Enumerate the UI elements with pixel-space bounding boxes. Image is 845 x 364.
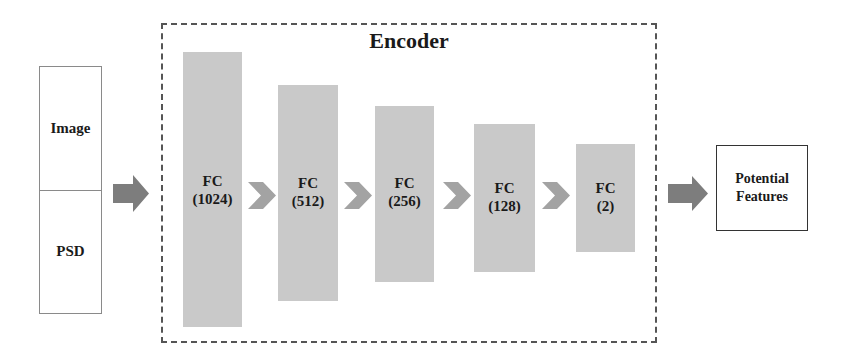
- layer-type: FC: [474, 179, 535, 197]
- block-arrow-right-icon: [668, 176, 708, 211]
- output-block: Potential Features: [716, 145, 808, 231]
- layer-type: FC: [576, 179, 635, 197]
- input-image-cell: Image: [40, 67, 101, 191]
- layer-type: FC: [183, 172, 242, 190]
- layer-units: (512): [278, 192, 338, 210]
- input-image-label: Image: [51, 120, 91, 137]
- input-block: Image PSD: [39, 66, 102, 314]
- output-label-line1: Potential: [735, 170, 789, 188]
- input-psd-label: PSD: [56, 243, 84, 260]
- encoder-title: Encoder: [161, 28, 657, 54]
- chevron-right-icon: [542, 182, 570, 209]
- layer-units: (256): [375, 192, 434, 210]
- chevron-right-icon: [443, 182, 471, 209]
- chevron-right-icon: [344, 182, 372, 209]
- layer-type: FC: [278, 174, 338, 192]
- fc-layer-256: FC (256): [375, 106, 434, 282]
- layer-units: (2): [576, 197, 635, 215]
- layer-units: (128): [474, 197, 535, 215]
- input-psd-cell: PSD: [40, 191, 101, 312]
- block-arrow-right-icon: [113, 175, 149, 212]
- layer-type: FC: [375, 174, 434, 192]
- fc-layer-2: FC (2): [576, 144, 635, 252]
- fc-layer-512: FC (512): [278, 85, 338, 301]
- layer-units: (1024): [183, 190, 242, 208]
- output-label-line2: Features: [735, 188, 789, 206]
- chevron-right-icon: [248, 182, 276, 209]
- fc-layer-1024: FC (1024): [183, 52, 242, 327]
- fc-layer-128: FC (128): [474, 124, 535, 272]
